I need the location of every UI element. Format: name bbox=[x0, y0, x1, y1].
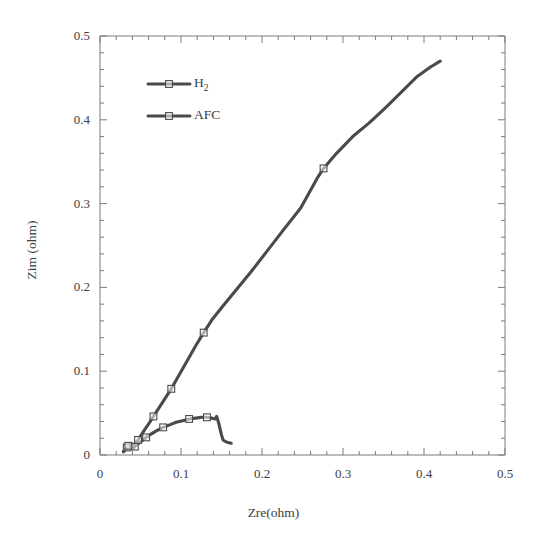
y-tick-label: 0.1 bbox=[52, 363, 90, 379]
data-point-marker-h2 bbox=[131, 443, 138, 450]
legend-label-h2: H2 bbox=[194, 75, 209, 93]
data-point-marker-afc bbox=[168, 385, 175, 392]
data-point-marker-h2 bbox=[204, 414, 211, 421]
legend-swatch-marker-0 bbox=[166, 81, 173, 88]
data-point-marker-h2 bbox=[160, 424, 167, 431]
x-tick-label: 0.1 bbox=[173, 466, 189, 482]
x-tick-label: 0.5 bbox=[497, 466, 513, 482]
y-tick-label: 0.2 bbox=[52, 279, 90, 295]
legend-label-main: H bbox=[194, 75, 204, 90]
y-axis-title: Zim (ohm) bbox=[24, 221, 40, 280]
x-tick-label: 0 bbox=[97, 466, 104, 482]
data-point-marker-afc bbox=[125, 442, 132, 449]
x-axis-title: Zre(ohm) bbox=[0, 505, 547, 521]
y-tick-label: 0 bbox=[52, 447, 90, 463]
y-tick-label: 0.5 bbox=[52, 28, 90, 44]
legend-label-subscript: 2 bbox=[204, 83, 209, 93]
data-point-marker-h2 bbox=[143, 434, 150, 441]
y-axis-title-container: Zim (ohm) bbox=[22, 190, 42, 310]
y-tick-label: 0.4 bbox=[52, 112, 90, 128]
data-point-marker-afc bbox=[150, 413, 157, 420]
data-point-marker-afc bbox=[200, 329, 207, 336]
series-line-h2 bbox=[123, 416, 231, 451]
data-point-marker-afc bbox=[320, 165, 327, 172]
legend-label-afc: AFC bbox=[194, 107, 220, 123]
x-tick-label: 0.2 bbox=[254, 466, 270, 482]
data-point-marker-afc bbox=[135, 437, 142, 444]
x-tick-label: 0.3 bbox=[335, 466, 351, 482]
nyquist-chart-figure: Zim (ohm) Zre(ohm) 00.10.20.30.40.5 00.1… bbox=[0, 0, 547, 542]
legend-label-main: AFC bbox=[194, 107, 220, 122]
data-point-marker-h2 bbox=[186, 416, 193, 423]
x-tick-label: 0.4 bbox=[416, 466, 432, 482]
legend-swatch-marker-1 bbox=[166, 113, 173, 120]
y-tick-label: 0.3 bbox=[52, 196, 90, 212]
